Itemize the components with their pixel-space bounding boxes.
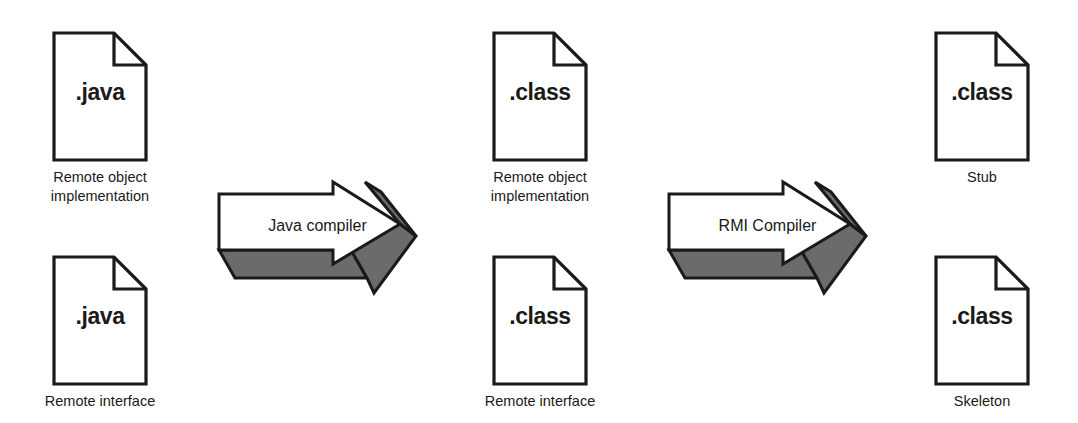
document-caption: Stub xyxy=(902,168,1062,187)
file-extension-label: .class xyxy=(492,81,588,104)
document-class-stub: .class Stub xyxy=(934,31,1030,187)
file-sheet-shape: .class xyxy=(934,31,1030,162)
document-caption: Remote interface xyxy=(20,392,180,411)
file-extension-label: .class xyxy=(934,81,1030,104)
document-caption: Remote object implementation xyxy=(20,168,180,205)
file-sheet-shape: .class xyxy=(934,255,1030,386)
file-extension-label: .class xyxy=(492,305,588,328)
rmi-compiler-arrow: RMI Compiler xyxy=(665,178,870,298)
file-extension-label: .class xyxy=(934,305,1030,328)
document-caption: Skeleton xyxy=(902,392,1062,411)
file-sheet-shape: .java xyxy=(52,255,148,386)
document-java-remote-interface: .java Remote interface xyxy=(52,255,148,411)
file-extension-label: .java xyxy=(52,305,148,328)
document-class-remote-interface: .class Remote interface xyxy=(492,255,588,411)
document-class-skeleton: .class Skeleton xyxy=(934,255,1030,411)
java-compiler-arrow: Java compiler xyxy=(215,178,420,298)
file-sheet-shape: .class xyxy=(492,31,588,162)
document-class-remote-object-implementation: .class Remote object implementation xyxy=(492,31,588,205)
file-extension-label: .java xyxy=(52,81,148,104)
document-java-remote-object-implementation: .java Remote object implementation xyxy=(52,31,148,205)
document-caption: Remote object implementation xyxy=(460,168,620,205)
diagram-canvas: .java Remote object implementation .java… xyxy=(0,0,1078,423)
document-caption: Remote interface xyxy=(460,392,620,411)
file-sheet-shape: .java xyxy=(52,31,148,162)
file-sheet-shape: .class xyxy=(492,255,588,386)
